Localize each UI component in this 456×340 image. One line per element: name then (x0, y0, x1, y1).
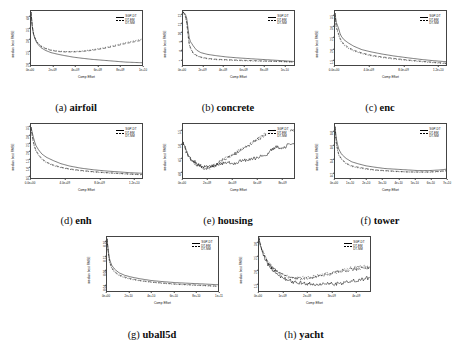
caption-name: uball5d (143, 329, 177, 340)
legend: SGP-DTDT-EMDT-NM (342, 240, 366, 253)
subplot-tower: median best RMSE0.20.40.60.8SGP-DTDT-EMD… (304, 113, 456, 226)
x-axis-ticks: 0e+001e+092e+093e+094e+09 (258, 292, 371, 298)
legend-swatch-sgp-dt (268, 17, 276, 18)
caption-name: airfoil (69, 102, 96, 113)
legend-swatch-sgp-dt (116, 130, 124, 131)
y-axis-label: median best RMSE (315, 143, 319, 170)
legend-label: DT-NM (125, 135, 135, 139)
y-axis-ticks: 0.040.080.120.16 (94, 236, 106, 292)
y-axis-label: median best RMSE (87, 256, 91, 283)
y-axis-label: median best RMSE (315, 30, 319, 57)
legend-swatch-dt-em (192, 246, 200, 247)
plot-area-yacht: SGP-DTDT-EMDT-NM (258, 236, 371, 292)
x-axis-ticks: 0e+002e+104e+106e+108e+101e+11 (106, 292, 219, 298)
x-axis-label: Comp Effort (258, 301, 371, 305)
x-tick-label: 8e+09 (260, 68, 268, 72)
x-tick-label: 1e+11 (215, 294, 223, 298)
plot-enc: median best RMSE1.52.02.53.03.5SGP-DTDT-… (322, 8, 450, 80)
legend-swatch-dt-nm (268, 137, 276, 138)
x-tick-label: 1.2e+10 (129, 181, 140, 185)
caption-name: tower (374, 215, 400, 226)
x-tick-label: 4.0e+09 (364, 68, 375, 72)
figure-row-3: median best RMSE0.040.080.120.16SGP-DTDT… (0, 226, 456, 340)
x-tick-label: 0e+00 (254, 294, 262, 298)
y-axis-ticks: 2.02.53.03.54.0 (18, 10, 30, 66)
plot-area-concrete: SGP-DTDT-EMDT-NM (182, 10, 295, 66)
legend-label: DT-NM (277, 135, 287, 139)
x-tick-label: 4e+09 (71, 68, 79, 72)
plot-housing: median best RMSE4.04.55.05.5SGP-DTDT-EMD… (170, 121, 298, 193)
x-tick-label: 2e+09 (49, 68, 57, 72)
legend: SGP-DTDT-EMDT-NM (266, 127, 290, 140)
legend: SGP-DTDT-EMDT-NM (418, 127, 442, 140)
y-axis-label: median best RMSE (239, 256, 243, 283)
x-tick-label: 1.2e+10 (433, 68, 444, 72)
legend-item: DT-NM (268, 22, 289, 26)
legend-swatch-dt-em (116, 20, 124, 21)
x-tick-label: 8e+09 (116, 68, 124, 72)
subplot-caption: (d) enh (0, 215, 152, 226)
x-tick-label: 5e+10 (411, 181, 419, 185)
legend-swatch-sgp-dt (192, 243, 200, 244)
x-tick-label: 1e+09 (279, 294, 287, 298)
legend-item: DT-NM (420, 135, 441, 139)
subplot-uball5d: median best RMSE0.040.080.120.16SGP-DTDT… (76, 226, 228, 340)
legend: SGP-DTDT-EMDT-NM (114, 14, 138, 27)
x-axis-ticks: 0.0e+004.0e+098.0e+091.2e+10 (30, 179, 143, 185)
plot-area-uball5d: SGP-DTDT-EMDT-NM (106, 236, 219, 292)
x-tick-label: 0e+00 (330, 181, 338, 185)
subplot-caption: (a) airfoil (0, 102, 152, 113)
plot-area-tower: SGP-DTDT-EMDT-NM (334, 123, 447, 179)
x-tick-label: 6e+09 (253, 181, 261, 185)
legend-swatch-sgp-dt (268, 130, 276, 131)
subplot-airfoil: median best RMSE2.02.53.03.54.0SGP-DTDT-… (0, 0, 152, 113)
subplot-caption: (g) uball5d (76, 329, 228, 340)
y-axis-ticks: 0.20.40.60.8 (322, 123, 334, 179)
legend-swatch-dt-nm (420, 137, 428, 138)
x-axis-label: Comp Effort (334, 188, 447, 192)
x-axis-ticks: 0e+002e+094e+096e+098e+091e+10 (30, 66, 143, 72)
x-tick-label: 2e+10 (362, 181, 370, 185)
plot-area-housing: SGP-DTDT-EMDT-NM (182, 123, 295, 179)
legend-swatch-sgp-dt (420, 130, 428, 131)
x-tick-label: 7e+10 (443, 181, 451, 185)
x-tick-label: 8e+10 (192, 294, 200, 298)
x-tick-label: 0e+00 (102, 294, 110, 298)
x-tick-label: 1e+10 (139, 68, 147, 72)
caption-tag: (d) (60, 215, 75, 226)
legend-swatch-dt-em (268, 20, 276, 21)
legend-label: DT-NM (125, 22, 135, 26)
legend-label: DT-NM (353, 248, 363, 252)
x-tick-label: 6e+09 (94, 68, 102, 72)
caption-tag: (b) (202, 102, 217, 113)
caption-tag: (c) (365, 102, 379, 113)
legend-swatch-dt-em (116, 133, 124, 134)
caption-tag: (a) (55, 102, 69, 113)
subplot-caption: (c) enc (304, 102, 456, 113)
x-tick-label: 4.0e+09 (60, 181, 71, 185)
x-axis-label: Comp Effort (30, 75, 143, 79)
figure-row-1: median best RMSE2.02.53.03.54.0SGP-DTDT-… (0, 0, 456, 113)
x-axis-ticks: 0e+002e+094e+096e+098e+09 (182, 179, 295, 185)
x-axis-label: Comp Effort (106, 301, 219, 305)
caption-name: enh (75, 215, 91, 226)
x-tick-label: 0e+00 (178, 181, 186, 185)
x-axis-label: Comp Effort (30, 188, 143, 192)
plot-tower: median best RMSE0.20.40.60.8SGP-DTDT-EMD… (322, 121, 450, 193)
x-tick-label: 0e+00 (26, 68, 34, 72)
legend-swatch-sgp-dt (344, 243, 352, 244)
x-axis-ticks: 0.0e+004.0e+098.0e+091.2e+10 (334, 66, 447, 72)
legend-swatch-dt-nm (192, 250, 200, 251)
x-tick-label: 1e+10 (346, 181, 354, 185)
x-axis-label: Comp Effort (182, 188, 295, 192)
subplot-housing: median best RMSE4.04.55.05.5SGP-DTDT-EMD… (152, 113, 304, 226)
x-tick-label: 2e+10 (125, 294, 133, 298)
x-tick-label: 8.0e+09 (398, 68, 409, 72)
y-axis-label: median best RMSE (163, 30, 167, 57)
legend: SGP-DTDT-EMDT-NM (190, 240, 214, 253)
subplot-enc: median best RMSE1.52.02.53.03.5SGP-DTDT-… (304, 0, 456, 113)
x-tick-label: 4e+10 (395, 181, 403, 185)
y-axis-label: median best RMSE (11, 143, 15, 170)
series-line-sgp-dt (183, 142, 294, 168)
x-axis-label: Comp Effort (182, 75, 295, 79)
